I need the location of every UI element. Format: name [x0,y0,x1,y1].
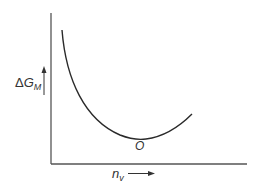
minimum-point-label: O [135,139,144,153]
free-energy-curve [62,30,192,139]
y-axis-label: ΔGM [15,75,41,92]
x-arrow-head-icon [148,171,155,176]
x-axis-label: nv [112,166,124,183]
gibbs-energy-diagram [0,0,259,185]
y-arrow-head-icon [42,66,47,73]
